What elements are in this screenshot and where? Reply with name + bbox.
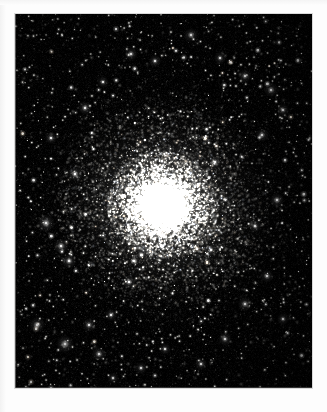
caption-area (15, 390, 312, 410)
paper-edge-top (0, 0, 327, 5)
photo-page (0, 0, 327, 412)
globular-cluster-photo (15, 14, 312, 388)
star-field-canvas (15, 14, 312, 388)
paper-edge-left (0, 0, 6, 412)
